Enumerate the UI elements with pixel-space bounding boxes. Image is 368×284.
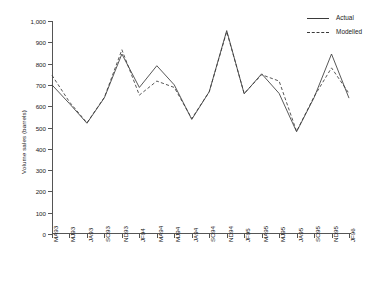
x-tick-label: JF96: [349, 228, 356, 242]
legend: ActualModelled: [307, 14, 362, 35]
y-tick-label: 0: [43, 231, 46, 238]
y-tick-label: 100: [36, 209, 46, 216]
y-tick-label: 300: [36, 167, 46, 174]
legend-label: Actual: [336, 14, 354, 21]
line-chart: Volume sales (barrels) 01002003004005006…: [0, 0, 368, 284]
series-lines: [52, 21, 350, 234]
legend-item: Actual: [307, 14, 362, 21]
legend-label: Modelled: [336, 28, 362, 35]
y-tick-label: 400: [36, 145, 46, 152]
legend-item: Modelled: [307, 28, 362, 35]
y-tick-label: 700: [36, 81, 46, 88]
y-axis-title: Volume sales (barrels): [14, 0, 32, 284]
legend-line-swatch: [307, 15, 329, 21]
y-tick-label: 500: [36, 124, 46, 131]
y-tick-label: 900: [36, 39, 46, 46]
y-tick-label: 1,000: [31, 18, 46, 25]
y-tick-label: 600: [36, 103, 46, 110]
series-line-actual: [52, 31, 349, 132]
y-tick-label: 800: [36, 60, 46, 67]
y-tick-label: 200: [36, 188, 46, 195]
legend-line-swatch: [307, 29, 329, 35]
plot-area: 01002003004005006007008009001,000 MA93MJ…: [52, 21, 350, 234]
